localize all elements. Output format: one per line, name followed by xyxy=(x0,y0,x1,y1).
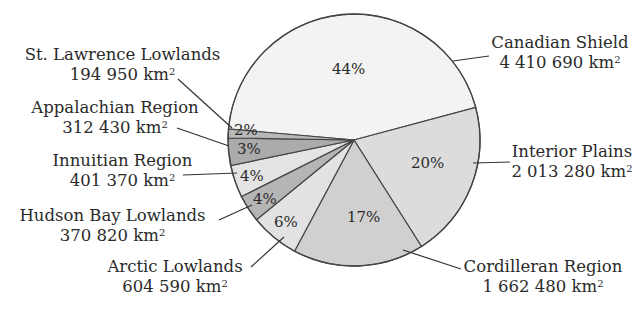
label-appalachian-region: Appalachian Region 312 430 km2 xyxy=(25,98,205,138)
label-interior-plains: Interior Plains 2 013 280 km2 xyxy=(508,142,636,182)
pct-appalachian-region: 3% xyxy=(237,140,261,158)
pct-canadian-shield: 44% xyxy=(332,60,365,78)
label-innuitian-region: Innuitian Region 401 370 km2 xyxy=(40,151,205,191)
label-name: Interior Plains xyxy=(508,142,636,162)
label-cordilleran-region: Cordilleran Region 1 662 480 km2 xyxy=(458,257,628,297)
label-name: Arctic Lowlands xyxy=(100,257,250,277)
leader-hudson xyxy=(219,205,252,220)
pct-cordilleran-region: 17% xyxy=(347,208,380,226)
label-area: 604 590 km2 xyxy=(100,277,250,297)
label-name: Cordilleran Region xyxy=(458,257,628,277)
label-area: 4 410 690 km2 xyxy=(485,53,635,73)
pct-interior-plains: 20% xyxy=(411,154,444,172)
label-hudson-bay-lowlands: Hudson Bay Lowlands 370 820 km2 xyxy=(10,206,215,246)
label-name: Canadian Shield xyxy=(485,33,635,53)
leader-canadian-shield xyxy=(453,56,489,61)
pie-chart: 44% 20% 17% 6% 4% 4% 3% 2% St. Lawrence … xyxy=(0,0,638,309)
label-area: 370 820 km2 xyxy=(10,226,215,246)
leader-cordilleran xyxy=(403,250,461,269)
pct-st-lawrence-lowlands: 2% xyxy=(234,121,258,139)
label-name: St. Lawrence Lowlands xyxy=(20,45,225,65)
leader-arctic xyxy=(251,237,284,267)
label-area: 312 430 km2 xyxy=(25,118,205,138)
label-area: 1 662 480 km2 xyxy=(458,277,628,297)
label-arctic-lowlands: Arctic Lowlands 604 590 km2 xyxy=(100,257,250,297)
pct-innuitian-region: 4% xyxy=(240,167,264,185)
label-name: Innuitian Region xyxy=(40,151,205,171)
label-name: Appalachian Region xyxy=(25,98,205,118)
label-canadian-shield: Canadian Shield 4 410 690 km2 xyxy=(485,33,635,73)
label-area: 194 950 km2 xyxy=(20,65,225,85)
label-st-lawrence-lowlands: St. Lawrence Lowlands 194 950 km2 xyxy=(20,45,225,85)
pct-arctic-lowlands: 6% xyxy=(274,213,298,231)
pct-hudson-bay-lowlands: 4% xyxy=(253,190,277,208)
label-area: 2 013 280 km2 xyxy=(508,162,636,182)
label-area: 401 370 km2 xyxy=(40,171,205,191)
label-name: Hudson Bay Lowlands xyxy=(10,206,215,226)
